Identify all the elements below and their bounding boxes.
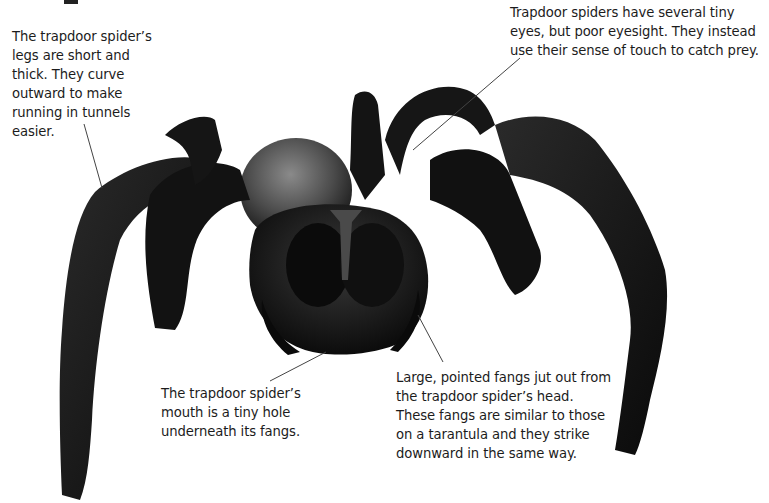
callout-fangs: Large, pointed fangs jut out from the tr… (396, 368, 616, 463)
callout-eyes: Trapdoor spiders have several tiny eyes,… (510, 3, 769, 60)
spider-leg-right-raised (350, 92, 385, 200)
leader-line-mouth (270, 352, 326, 381)
spider-leg-left-inner (145, 163, 250, 330)
callout-mouth: The trapdoor spider’s mouth is a tiny ho… (161, 384, 311, 441)
leader-line-fangs (418, 315, 443, 362)
callout-legs: The trapdoor spider’s legs are short and… (12, 27, 162, 141)
